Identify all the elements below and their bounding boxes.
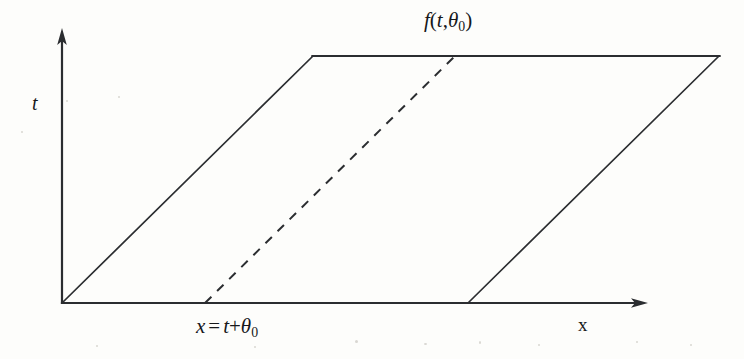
x-axis-group (62, 298, 648, 308)
dashed-characteristic-line (205, 56, 455, 303)
dashed-label-plus: + (229, 314, 241, 338)
figure-diagram (0, 0, 744, 359)
x-axis-label: x (578, 315, 588, 334)
right-diagonal-edge (468, 56, 719, 303)
t-axis-group (57, 28, 67, 303)
dashed-line-label: x=t+θ0 (196, 316, 258, 340)
dashed-label-equals: = (208, 314, 220, 338)
dashed-label-theta-subscript: 0 (251, 325, 258, 340)
function-label-theta: θ (448, 8, 458, 32)
left-diagonal-edge (62, 56, 313, 303)
dashed-label-x: x (196, 314, 205, 338)
dashed-label-theta: θ (241, 314, 251, 338)
function-label-close-paren: ) (465, 8, 472, 32)
figure-canvas: f(t,θ0) t x x=t+θ0 (0, 0, 744, 359)
t-axis-label: t (32, 93, 38, 113)
function-label: f(t,θ0) (424, 10, 472, 34)
parallelogram-region (62, 56, 720, 303)
function-label-open-paren: ( (430, 8, 437, 32)
